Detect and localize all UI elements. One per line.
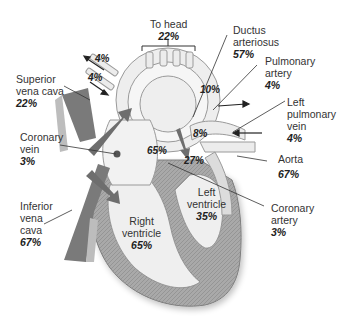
label-name: ventricle bbox=[122, 227, 161, 239]
heart-diagram: To head 22% Ductus arteriosus 57% Pulmon… bbox=[0, 0, 351, 324]
label-name: Coronary bbox=[20, 131, 63, 143]
label-inferior-vena-cava: Inferior vena cava 67% bbox=[20, 200, 53, 248]
label-name: Left bbox=[287, 96, 336, 108]
label-left-ventricle: Left ventricle 35% bbox=[187, 186, 226, 222]
value-right-atrium: 65% bbox=[147, 145, 167, 156]
label-coronary-artery: Coronary artery 3% bbox=[271, 202, 314, 238]
label-name: To head bbox=[150, 18, 187, 30]
value-arch: 10% bbox=[200, 84, 220, 95]
label-name: vein bbox=[20, 143, 63, 155]
label-percent: 65% bbox=[122, 239, 161, 251]
label-to-head: To head 22% bbox=[150, 18, 187, 42]
label-left-pulmonary-vein: Left pulmonary vein 4% bbox=[287, 96, 336, 144]
label-percent: 22% bbox=[16, 97, 64, 109]
label-name: vein bbox=[287, 120, 336, 132]
value-left-atrium: 27% bbox=[184, 155, 204, 166]
label-name: Pulmonary bbox=[265, 55, 315, 67]
label-name: Left bbox=[187, 186, 226, 198]
label-percent: 67% bbox=[278, 168, 303, 180]
label-percent: 35% bbox=[187, 210, 226, 222]
label-name: ventricle bbox=[187, 198, 226, 210]
label-pulmonary-artery: Pulmonary artery 4% bbox=[265, 55, 315, 91]
label-name: arteriosus bbox=[233, 36, 279, 48]
label-name: artery bbox=[271, 214, 314, 226]
label-name: Superior bbox=[16, 73, 64, 85]
value-upper-branch-2: 4% bbox=[88, 72, 102, 83]
label-percent: 4% bbox=[265, 79, 315, 91]
label-name: Right bbox=[122, 215, 161, 227]
label-name: Aorta bbox=[278, 153, 303, 165]
label-percent: 3% bbox=[271, 226, 314, 238]
label-percent: 67% bbox=[20, 236, 53, 248]
label-name: Coronary bbox=[271, 202, 314, 214]
label-name: cava bbox=[20, 224, 53, 236]
value-upper-branch-1: 4% bbox=[95, 53, 109, 64]
label-right-ventricle: Right ventricle 65% bbox=[122, 215, 161, 251]
label-name: pulmonary bbox=[287, 108, 336, 120]
label-name: vena cava bbox=[16, 85, 64, 97]
label-percent: 4% bbox=[287, 132, 336, 144]
label-percent: 3% bbox=[20, 155, 63, 167]
label-name: artery bbox=[265, 67, 315, 79]
label-coronary-vein: Coronary vein 3% bbox=[20, 131, 63, 167]
value-foramen: 8% bbox=[193, 128, 207, 139]
label-superior-vena-cava: Superior vena cava 22% bbox=[16, 73, 64, 109]
label-name: vena bbox=[20, 212, 53, 224]
label-name: Inferior bbox=[20, 200, 53, 212]
label-name: Ductus bbox=[233, 24, 279, 36]
label-percent: 22% bbox=[150, 30, 187, 42]
label-aorta: Aorta 67% bbox=[278, 153, 303, 180]
